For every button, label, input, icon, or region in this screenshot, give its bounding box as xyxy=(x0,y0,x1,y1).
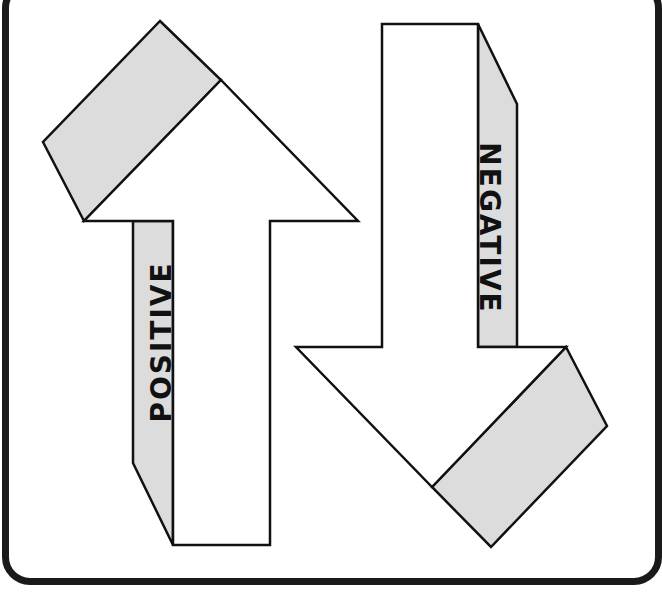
negative-label: NEGATIVE xyxy=(473,142,506,313)
up-arrow xyxy=(43,21,358,545)
positive-label: POSITIVE xyxy=(145,261,178,422)
down-arrow xyxy=(296,24,607,547)
